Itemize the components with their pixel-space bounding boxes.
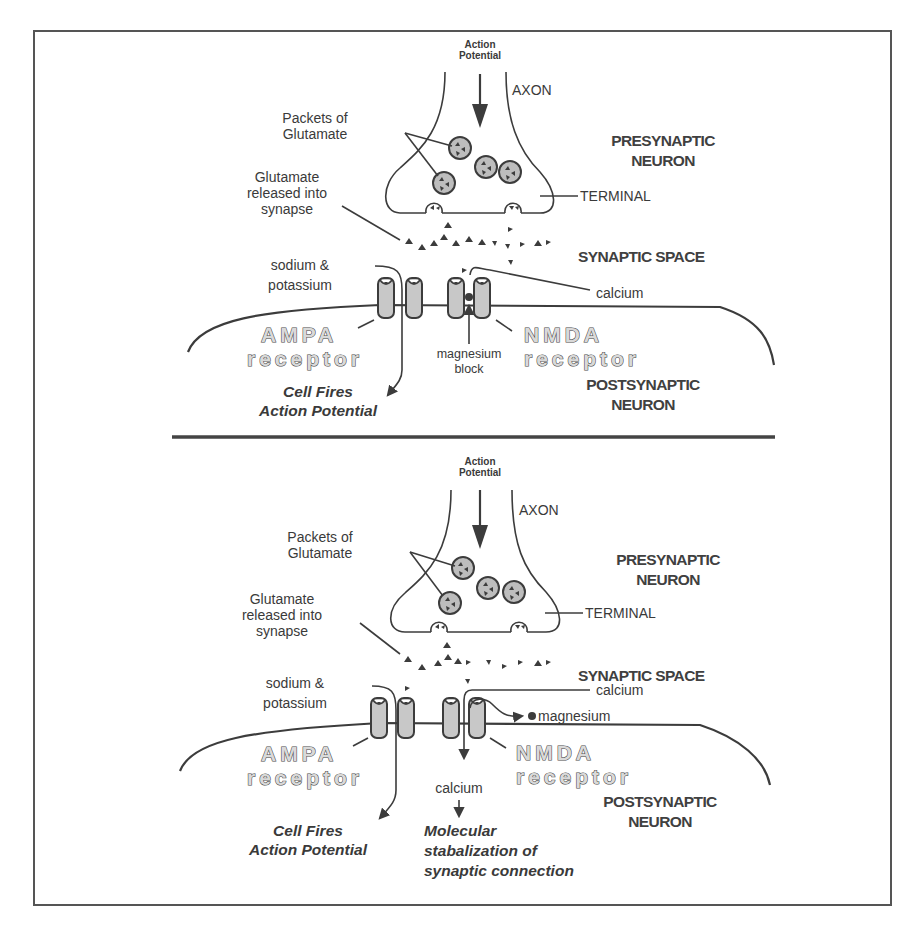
magnesium-label: magnesium [538,708,610,724]
panel-top: Action Potential AXON Packets of Glutama… [188,39,774,419]
postsynaptic-label-line1: POSTSYNAPTIC [603,793,717,810]
nmda-channel [448,278,464,318]
ampa-label-line2: receptor [247,347,363,370]
action-potential-label-line1: Action [464,39,495,50]
glutamate-released-line3: synapse [261,201,313,217]
diagram-canvas: Action Potential AXON Packets of Glutama… [0,0,922,932]
glutamate-molecules [404,642,551,691]
nmda-pointer [490,738,506,748]
packets-label-line1: Packets of [287,529,352,545]
postsynaptic-label-line2: NEURON [628,813,692,830]
postsynaptic-label-line2: NEURON [611,396,675,413]
nmda-channel [474,278,490,318]
terminal-label: TERMINAL [585,605,656,621]
glutamate-molecules [405,222,551,273]
packets-label-line1: Packets of [282,110,347,126]
glutamate-released-line3: synapse [256,623,308,639]
release-pocket-right [511,622,527,632]
magnesium-block-line2: block [454,362,484,376]
glutamate-released-line1: Glutamate [250,591,315,607]
glutamate-vesicle [477,577,499,599]
action-potential-label-line1: Action [464,456,495,467]
nmda-label-line2: receptor [524,347,640,370]
ampa-label-line2: receptor [247,766,363,789]
panel-bottom: Action Potential AXON Packets of Glutama… [180,456,770,879]
outcome-label-line2: Action Potential [248,841,368,858]
nmda-pointer [496,320,512,331]
molecular-label-line1: Molecular [424,822,497,839]
action-potential-label-line2: Potential [459,50,501,61]
glutamate-released-line1: Glutamate [255,169,320,185]
glutamate-released-pointer [342,206,400,240]
nmda-label-line2: receptor [516,765,632,788]
sodium-label-line1: sodium & [266,675,325,691]
outcome-label-line1: Cell Fires [283,383,353,400]
outcome-label-line1: Cell Fires [273,822,343,839]
calcium-label: calcium [596,682,643,698]
glutamate-vesicle [449,137,471,159]
synapse-diagram: Action Potential AXON Packets of Glutama… [0,0,922,932]
magnesium-ion [528,712,536,720]
ampa-channel [371,698,387,738]
glutamate-vesicle [433,172,455,194]
action-potential-label-line2: Potential [459,467,501,478]
ampa-pointer [358,320,374,328]
sodium-label-line1: sodium & [271,257,330,273]
outcome-label-line2: Action Potential [258,402,378,419]
glutamate-vesicle [503,581,525,603]
terminal-label: TERMINAL [580,188,651,204]
sodium-label-line2: potassium [268,277,332,293]
glutamate-vesicle [452,557,474,579]
molecular-label-line2: stabalization of [424,842,539,859]
ampa-channel [406,278,422,318]
presynaptic-label-line1: PRESYNAPTIC [611,132,715,149]
magnesium-ion [465,293,473,301]
ampa-label-line1: AMPA [261,323,337,346]
axon-label: AXON [519,502,559,518]
presynaptic-label-line2: NEURON [636,571,700,588]
nmda-channel [443,698,459,738]
postsynaptic-label-line1: POSTSYNAPTIC [586,376,700,393]
ampa-pointer [353,738,368,746]
glutamate-released-line2: released into [242,607,322,623]
packets-pointer [410,552,443,596]
ampa-channel [378,278,394,318]
ampa-channel [398,698,414,738]
molecular-label-line3: synaptic connection [424,862,574,879]
nmda-label-line1: NMDA [524,323,603,346]
action-potential-arrow-icon [472,104,488,128]
calcium-inside-label: calcium [435,780,482,796]
packets-label-line2: Glutamate [283,126,348,142]
sodium-label-line2: potassium [263,695,327,711]
glutamate-released-line2: released into [247,185,327,201]
action-potential-arrow-icon [472,525,488,549]
packets-label-line2: Glutamate [288,545,353,561]
synaptic-space-label: SYNAPTIC SPACE [578,248,705,265]
presynaptic-label-line2: NEURON [631,152,695,169]
packets-pointer [405,133,452,146]
magnesium-block-line1: magnesium [437,347,502,361]
glutamate-vesicle [499,161,521,183]
nmda-label-line1: NMDA [516,741,595,764]
release-pocket-right [505,203,521,213]
packets-pointer [405,133,438,176]
presynaptic-label-line1: PRESYNAPTIC [616,551,720,568]
axon-label: AXON [512,82,552,98]
ampa-label-line1: AMPA [261,742,337,765]
glutamate-vesicle [475,156,497,178]
calcium-label: calcium [596,285,643,301]
